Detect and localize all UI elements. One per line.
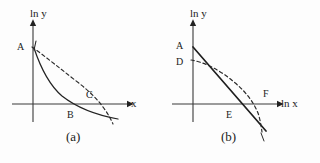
panel-a-caption: (a) [66,130,80,143]
panel-a-x-axis-label: x [131,98,137,109]
panel-b-line-tail [261,133,264,141]
panel-b-point-label-F: F [263,89,269,99]
panel-b-plot [160,0,320,163]
panel-b-point-label-E: E [226,110,232,120]
panel-a-solid-curve [34,48,118,119]
panel-a-point-label-A: A [17,42,24,52]
panel-b-point-label-D: D [176,57,183,67]
figure-panel-pair: ln y x A B C (a) [0,0,320,163]
panel-b-x-axis-label: ln x [281,98,298,109]
panel-a-y-axis-label: ln y [30,8,47,19]
panel-b-caption: (b) [221,130,236,143]
panel-b-dashed-curve [191,60,262,132]
panel-a-point-label-B: B [67,110,74,120]
panel-b: ln y ln x A D E F (b) [160,0,320,163]
panel-a-point-label-C: C [86,90,93,100]
panel-b-point-label-A: A [176,41,183,51]
panel-b-y-axis-label: ln y [190,8,207,19]
panel-a: ln y x A B C (a) [0,0,160,163]
